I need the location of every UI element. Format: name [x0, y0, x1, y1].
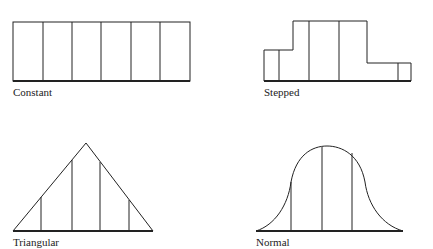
stepped-shape	[264, 21, 411, 81]
normal-shape	[256, 146, 403, 231]
normal-label: Normal	[256, 236, 290, 248]
stepped-label: Stepped	[264, 86, 299, 98]
constant-label: Constant	[13, 86, 52, 98]
triangular-shape	[13, 143, 153, 231]
distribution-shapes-figure	[0, 0, 433, 249]
constant-shape	[13, 22, 190, 81]
triangular-label: Triangular	[13, 236, 59, 248]
